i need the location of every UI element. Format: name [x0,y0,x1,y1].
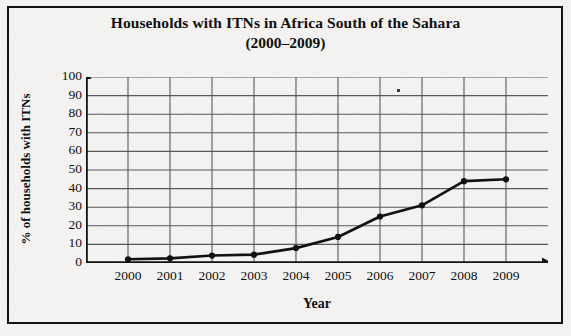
y-tick-50: 50 [42,161,82,177]
line-chart-plot [86,77,548,263]
y-axis-label: % of households with ITNs [18,64,34,274]
y-tick-70: 70 [42,124,82,140]
chart-title: Households with ITNs in Africa South of … [0,13,571,34]
y-tick-60: 60 [42,142,82,158]
chart-page: Households with ITNs in Africa South of … [0,0,571,336]
x-axis-label: Year [86,296,548,312]
x-tick-2009: 2009 [476,268,536,284]
y-tick-90: 90 [42,87,82,103]
y-tick-80: 80 [42,105,82,121]
y-tick-100: 100 [42,68,82,84]
chart-subtitle: (2000–2009) [0,34,571,52]
y-tick-30: 30 [42,198,82,214]
y-tick-10: 10 [42,235,82,251]
y-tick-20: 20 [42,217,82,233]
y-tick-0: 0 [42,254,82,270]
scan-speck-artifact [397,89,400,92]
y-tick-40: 40 [42,180,82,196]
